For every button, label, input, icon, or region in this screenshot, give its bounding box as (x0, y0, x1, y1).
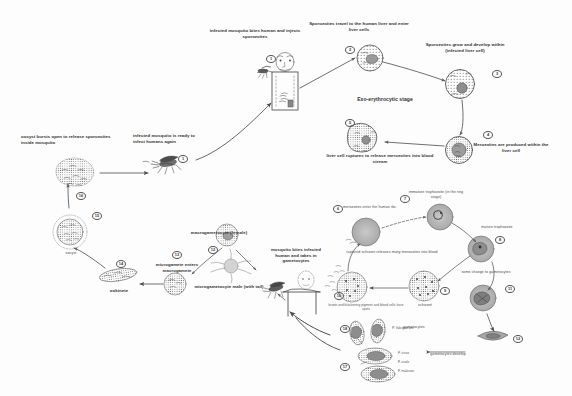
rbc-merozoites-entering (346, 218, 380, 246)
step-number-11: 11 (505, 285, 515, 293)
label-p-malariae: P. malariae (398, 369, 438, 373)
step-number-5: 5 (345, 119, 355, 127)
liver-cell-entering (357, 45, 383, 71)
label-ookinete: ookinete (98, 288, 140, 294)
arrow-oocyst15-to-16 (68, 184, 69, 208)
arrow-micro-path (236, 250, 256, 270)
ruptured-liver-cell (347, 123, 376, 152)
arrow-body-to-liver (300, 58, 355, 88)
step-number-15: 15 (92, 212, 102, 220)
label-oocyst: oocyst (52, 251, 90, 256)
arrow-rbc-to-ring (382, 217, 426, 228)
label-liver-cell-ruptures: liver cell ruptures to release merozoite… (325, 153, 435, 164)
step-number-12b: 12 (513, 335, 523, 343)
oocyst-bursting (56, 158, 94, 186)
p-falciparum-gametocytes (348, 318, 387, 346)
label-microgamete-enters: microgamete enters macrogamete (144, 262, 210, 273)
label-microgametocyte: microgametocyte male (with tail) (192, 284, 266, 290)
step-number-7: 7 (400, 195, 410, 203)
step-number-3: 3 (492, 70, 502, 78)
arrow-mature-to-gametocyte (488, 262, 494, 290)
arrow-to-gametocyte-banana (487, 314, 494, 331)
malaria-lifecycle-diagram: infected mosquito bites human and inject… (0, 0, 572, 396)
immature-trophozoite-ring (427, 204, 453, 230)
step-number-6: 6 (333, 205, 343, 213)
label-macrogametocyte: macrogametocyte (female) (186, 230, 252, 236)
label-exo-erythrocytic-stage: Exo-erythrocytic stage (330, 96, 440, 103)
arrow-cell2-to-cell3 (383, 62, 445, 81)
step-number-1: 1 (266, 55, 276, 63)
label-sporozoites-grow: Sporozoites grow and develop within (inf… (417, 42, 513, 53)
step-number-17: 17 (340, 363, 350, 371)
label-sporozoites-travel: Sporozoites travel to the human liver an… (304, 21, 414, 32)
oocyst-15 (53, 215, 87, 249)
label-p-ovale: P. ovale (398, 360, 438, 364)
label-schizont: schizont (406, 303, 444, 308)
p-vivax-ovale-malariae-gametocytes (358, 348, 395, 382)
human-figure-top (272, 53, 298, 111)
step-number-9: 9 (440, 287, 450, 295)
label-brown-pigment: brown and blackening pigment and blood c… (327, 303, 405, 311)
arrow-bite-detail (278, 294, 285, 300)
liver-cell-growing (446, 70, 475, 99)
arrow-mature-to-schizont (438, 256, 470, 281)
label-mature-trophozoite: mature trophozoite (466, 225, 528, 230)
mosquito-biting-top (258, 66, 273, 78)
arrow-gametocytes-to-mosquito (290, 312, 330, 335)
label-infected-mosquito-bites: infected mosquito bites human and inject… (203, 28, 307, 39)
step-number-2: 2 (345, 46, 355, 54)
label-mosquito-bites-infected: mosquito bites infected human and takes … (266, 247, 326, 264)
label-p-falciparum: P. falciparum (392, 326, 438, 331)
arrow-cell3-to-cell4 (460, 100, 463, 135)
step-number-8: 8 (495, 236, 505, 244)
mature-trophozoite (468, 236, 494, 262)
mosquito-biting-human-bottom (263, 271, 320, 316)
label-merozoites-enter-rbc: merozoites enter the human rbc (343, 205, 399, 210)
arrow-cell4-to-rupture (385, 142, 444, 146)
label-oocyst-bursts: oocyst bursts open to release sporozoite… (21, 134, 117, 145)
gametocyte-banana (478, 331, 508, 340)
label-p-vivax: P. vivax (398, 351, 438, 355)
rbc-changing-to-gametocyte (470, 285, 496, 311)
label-some-change: some change to gametocytes (458, 270, 514, 275)
label-mosquito-ready: infected mosquito is ready to infect hum… (133, 133, 197, 144)
arrow-ruptured-back-to-rbc (348, 244, 360, 271)
mosquito-infected-ready (143, 156, 181, 174)
step-number-10: 10 (334, 292, 344, 300)
schizont (409, 271, 439, 301)
step-number-13: 13 (172, 251, 182, 259)
label-ruptured-schizont: ruptured schizont releases many merozoit… (344, 250, 440, 255)
step-number-18: 18 (340, 325, 350, 333)
label-merozoites-produced: Merozoites are produced within the liver… (472, 142, 550, 153)
microgametocyte-male (211, 249, 251, 283)
label-immature-trophozoite: immature trophozoite (in the ring stage) (404, 190, 468, 199)
liver-cell-merozoites (446, 137, 473, 164)
arrow-mosquito-to-human (196, 103, 271, 160)
arrow-cycle-to-bite (296, 318, 340, 350)
step-number-16: 16 (76, 192, 86, 200)
step-number-1b: 1 (178, 155, 188, 163)
step-number-14: 14 (116, 260, 126, 268)
diagram-artwork (0, 0, 572, 396)
zygote-fertilisation (164, 273, 186, 295)
ruptured-schizont (325, 265, 367, 302)
step-number-12: 12 (208, 246, 218, 254)
ookinete (98, 266, 137, 284)
step-number-4: 4 (483, 131, 493, 139)
